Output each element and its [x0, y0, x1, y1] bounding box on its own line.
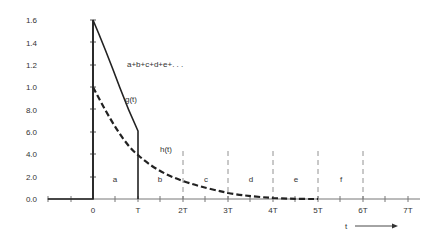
arrow-right-icon: [355, 224, 398, 229]
y-tick-label: 2.0: [26, 173, 38, 182]
sum-annotation: a+b+c+d+e+. . .: [127, 60, 183, 69]
region-label-e: e: [294, 175, 299, 184]
y-tick-label: 4.0: [26, 150, 38, 159]
y-tick-label: 1.4: [26, 39, 38, 48]
x-axis-labels: 0 T 2T 3T 4T 5T 6T 7T: [91, 206, 413, 215]
x-tick-label: 3T: [223, 206, 232, 215]
y-tick-label: 1.6: [26, 16, 38, 25]
x-tick-label: 6T: [358, 206, 367, 215]
y-tick-label: 0.0: [26, 195, 38, 204]
x-tick-label: T: [136, 206, 141, 215]
x-tick-label: 2T: [178, 206, 187, 215]
x-tick-label: 4T: [268, 206, 277, 215]
y-tick-label: 8.0: [26, 106, 38, 115]
x-tick-label: 0: [91, 206, 96, 215]
region-label-f: f: [340, 175, 343, 184]
y-tick-label: 6.0: [26, 128, 38, 137]
x-tick-label: 5T: [313, 206, 322, 215]
region-label-c: c: [204, 175, 208, 184]
x-tick-label: 7T: [403, 206, 412, 215]
series-g-line: [48, 20, 138, 199]
y-tick-label: 1.2: [26, 61, 38, 70]
region-label-a: a: [113, 175, 118, 184]
h-series-label: h(t): [160, 145, 172, 154]
interval-markers: [183, 151, 363, 199]
t-axis-label: t: [345, 222, 348, 231]
y-tick-label: 1.0: [26, 83, 38, 92]
g-series-label: g(t): [125, 95, 137, 104]
chart: 0.0 2.0 4.0 6.0 8.0 1.0 1.2 1.4 1.6: [0, 0, 447, 241]
region-label-b: b: [158, 175, 163, 184]
region-label-d: d: [249, 175, 253, 184]
y-axis-labels: 0.0 2.0 4.0 6.0 8.0 1.0 1.2 1.4 1.6: [26, 16, 38, 204]
